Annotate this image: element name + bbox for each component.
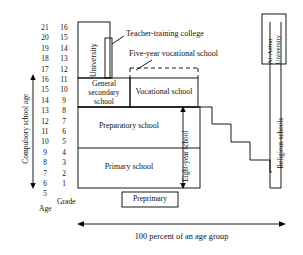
age-tick: 13 <box>38 107 52 115</box>
percent-axis-arrow-right <box>279 221 286 227</box>
age-tick: 20 <box>38 34 52 42</box>
vocational-school-label: Vocational school <box>131 88 197 96</box>
age-tick: 9 <box>38 149 52 157</box>
compulsory-arrow-bottom <box>30 183 35 189</box>
age-tick: 18 <box>38 55 52 63</box>
teacher-training-college-label: Teacher-training college <box>126 30 204 38</box>
age-tick: 19 <box>38 45 52 53</box>
grade-tick: 6 <box>57 128 71 136</box>
age-tick: 5 <box>38 190 52 198</box>
grade-tick: 8 <box>57 107 71 115</box>
general-secondary-line3: school <box>80 98 128 106</box>
general-secondary-line1: General <box>80 80 128 88</box>
age-tick: 6 <box>38 180 52 188</box>
percent-axis-arrow-left <box>77 221 84 227</box>
grade-tick: 15 <box>57 34 71 42</box>
age-tick: 15 <box>38 86 52 94</box>
teacher-training-box <box>105 38 112 78</box>
percent-axis-caption: 100 percent of an age group <box>82 233 281 242</box>
grade-tick: 11 <box>57 76 71 84</box>
age-tick: 7 <box>38 170 52 178</box>
age-tick: 17 <box>38 66 52 74</box>
grade-tick: 12 <box>57 66 71 74</box>
grade-tick: 4 <box>57 149 71 157</box>
education-system-diagram: 21201918171615141312111098765 1615141312… <box>0 0 303 255</box>
grade-tick: 10 <box>57 86 71 94</box>
five-year-vocational-school-label: Five-year vocational school <box>129 50 218 58</box>
compulsory-school-age-label: Compulsory school age <box>22 84 30 174</box>
university-label: University <box>90 23 98 77</box>
five-year-leader <box>136 60 152 70</box>
compulsory-arrow-top <box>30 74 35 80</box>
age-tick: 10 <box>38 138 52 146</box>
staircase-line <box>200 107 272 172</box>
age-tick: 11 <box>38 128 52 136</box>
age-tick: 16 <box>38 76 52 84</box>
five-year-vocational-dashed <box>130 68 198 78</box>
grade-tick: 3 <box>57 159 71 167</box>
age-tick: 12 <box>38 118 52 126</box>
age-tick: 21 <box>38 24 52 32</box>
al-azhar-line2: University <box>275 19 282 65</box>
grade-tick: 5 <box>57 138 71 146</box>
teacher-training-leader <box>112 36 124 44</box>
grade-tick: 9 <box>57 97 71 105</box>
grade-tick: 14 <box>57 45 71 53</box>
age-tick: 8 <box>38 159 52 167</box>
primary-school-label: Primary school <box>79 163 179 171</box>
grade-tick: 7 <box>57 118 71 126</box>
age-header: Age <box>39 205 52 213</box>
age-tick: 14 <box>38 97 52 105</box>
general-secondary-line2: secondary <box>80 89 128 97</box>
religious-schools-label: Religious schools <box>278 95 285 169</box>
grade-tick: 1 <box>57 180 71 188</box>
grade-header: Grade <box>57 198 76 206</box>
eight-year-school-label: Eight-year school <box>183 118 190 182</box>
grade-tick: 16 <box>57 24 71 32</box>
grade-tick: 2 <box>57 170 71 178</box>
grade-tick: 13 <box>57 55 71 63</box>
preparatory-school-label: Preparatory school <box>79 122 179 130</box>
preprimary-label: Preprimary <box>122 195 178 203</box>
